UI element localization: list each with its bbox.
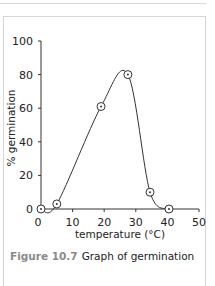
data-point-dot	[149, 191, 151, 193]
data-point-dot	[168, 208, 170, 210]
x-tick-label: 0	[35, 216, 42, 229]
y-tick-label: 60	[19, 102, 33, 115]
y-axis-title: % germination	[5, 90, 17, 167]
y-tick-label: 40	[19, 136, 33, 149]
data-point-dot	[56, 203, 58, 205]
x-tick-label: 50	[192, 216, 206, 229]
data-point-dot	[40, 208, 42, 210]
data-points	[37, 71, 173, 213]
figure-label: Figure 10.7	[10, 250, 78, 262]
data-point-dot	[100, 106, 102, 108]
figure-caption: Figure 10.7Graph of germination	[10, 250, 194, 262]
y-tick-label: 100	[12, 35, 33, 48]
x-axis-title: temperature (°C)	[75, 228, 165, 240]
y-tick-label: 20	[19, 169, 33, 182]
y-tick-label: 0	[26, 203, 33, 216]
axes: 02040608010001020304050	[12, 35, 206, 229]
caption-text: Graph of germination	[82, 250, 195, 262]
data-point-dot	[127, 74, 129, 76]
y-tick-label: 80	[19, 69, 33, 82]
